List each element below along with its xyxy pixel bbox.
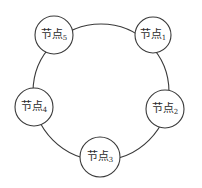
node-label-text: 节点 — [21, 100, 43, 113]
node-label-subscript: 1 — [162, 34, 166, 42]
node-4-label: 节点4 — [21, 101, 47, 114]
node-label-subscript: 4 — [43, 106, 47, 114]
node-1-label: 节点1 — [140, 29, 166, 42]
node-label-text: 节点 — [87, 150, 109, 163]
node-label-text: 节点 — [140, 28, 162, 41]
node-5-label: 节点5 — [41, 29, 67, 42]
node-label-subscript: 5 — [63, 34, 67, 42]
node-label-text: 节点 — [152, 102, 174, 115]
node-label-text: 节点 — [41, 28, 63, 41]
node-2-label: 节点2 — [152, 103, 178, 116]
node-3-label: 节点3 — [87, 151, 113, 164]
node-label-subscript: 3 — [109, 156, 113, 164]
node-label-subscript: 2 — [174, 108, 178, 116]
